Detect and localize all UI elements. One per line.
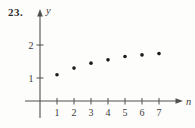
x-tick-label: 1 — [55, 107, 60, 118]
data-point — [72, 66, 76, 70]
plot-svg: 123456712yn — [0, 0, 195, 128]
y-tick-label: 2 — [29, 40, 34, 51]
x-tick-label: 5 — [123, 107, 128, 118]
data-point — [106, 58, 110, 62]
sequence-scatter-figure: 23. 123456712yn — [0, 0, 195, 128]
y-axis-label: y — [45, 5, 51, 16]
data-point — [55, 73, 59, 77]
y-tick-label: 1 — [29, 73, 34, 84]
x-axis-label: n — [186, 96, 191, 107]
data-point — [89, 61, 93, 65]
x-axis-arrow-icon — [176, 98, 184, 104]
data-point — [157, 52, 161, 56]
x-tick-label: 4 — [106, 107, 111, 118]
y-axis-arrow-icon — [37, 9, 43, 17]
x-tick-label: 7 — [157, 107, 162, 118]
data-point — [140, 53, 144, 57]
data-point — [123, 55, 127, 59]
x-tick-label: 2 — [72, 107, 77, 118]
x-tick-label: 3 — [89, 107, 94, 118]
x-tick-label: 6 — [140, 107, 145, 118]
